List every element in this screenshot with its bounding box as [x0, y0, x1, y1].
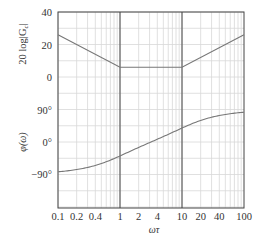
y-tick-label: 0 [47, 72, 52, 83]
y-tick-label: 0° [43, 137, 52, 148]
y-tick-label: −90° [31, 169, 52, 180]
magnitude-line [58, 35, 244, 68]
bode-plot: 02040−90°0°90°0.10.20.4124102040100ωτ20 … [0, 0, 264, 240]
y-tick-label: 40 [42, 7, 53, 18]
phase-y-label: φ(ω) [17, 132, 29, 152]
y-tick-label: 20 [42, 40, 53, 51]
x-tick-label: 100 [236, 211, 252, 222]
y-tick-label: 90° [37, 105, 52, 116]
x-axis-label: ωτ [149, 224, 160, 235]
x-tick-label: 20 [195, 211, 206, 222]
x-tick-label: 40 [214, 211, 225, 222]
x-tick-label: 0.2 [70, 211, 83, 222]
x-tick-label: 0.1 [51, 211, 64, 222]
magnitude-y-label: 20 log|Gc| [17, 23, 30, 64]
plot-frame [58, 12, 244, 208]
x-tick-label: 1 [117, 211, 122, 222]
x-tick-label: 4 [155, 211, 161, 222]
x-tick-label: 2 [136, 211, 141, 222]
x-tick-label: 0.4 [89, 211, 103, 222]
x-tick-label: 10 [177, 211, 188, 222]
